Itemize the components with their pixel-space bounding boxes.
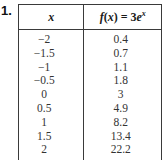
- table-row: 0.5 4.9: [19, 102, 162, 116]
- cell-x: 0.5: [19, 102, 84, 116]
- table-row: −1.5 0.7: [19, 47, 162, 61]
- table-row: −1 1.1: [19, 61, 162, 75]
- cell-x: −1.5: [19, 47, 84, 61]
- table-row: 1.5 13.4: [19, 130, 162, 144]
- cell-x: −2: [19, 30, 84, 47]
- exercise-page: 1. x f(x) = 3ex −2 0.4 −1.5 0.7 −1 1.1 −…: [0, 0, 167, 160]
- cell-fx: 8.2: [84, 116, 162, 130]
- function-values-table: x f(x) = 3ex −2 0.4 −1.5 0.7 −1 1.1 −0.5…: [18, 4, 162, 160]
- cell-x: 1.5: [19, 130, 84, 144]
- header-fx: f(x) = 3ex: [84, 5, 162, 30]
- cell-fx: 0.7: [84, 47, 162, 61]
- cell-fx: 3: [84, 88, 162, 102]
- cell-fx: 22.2: [84, 143, 162, 160]
- table-row: 1 8.2: [19, 116, 162, 130]
- cell-x: −1: [19, 61, 84, 75]
- cell-fx: 0.4: [84, 30, 162, 47]
- cell-fx: 13.4: [84, 130, 162, 144]
- table-header-row: x f(x) = 3ex: [19, 5, 162, 30]
- header-x-label: x: [48, 10, 54, 24]
- table-row: 0 3: [19, 88, 162, 102]
- table-row: −0.5 1.8: [19, 74, 162, 88]
- cell-fx: 1.8: [84, 74, 162, 88]
- header-equals-coefficient: = 3: [118, 10, 137, 24]
- cell-x: 2: [19, 143, 84, 160]
- cell-x: −0.5: [19, 74, 84, 88]
- cell-fx: 4.9: [84, 102, 162, 116]
- header-x: x: [19, 5, 84, 30]
- header-exponent: x: [142, 9, 146, 18]
- cell-x: 0: [19, 88, 84, 102]
- cell-fx: 1.1: [84, 61, 162, 75]
- table-row: 2 22.2: [19, 143, 162, 160]
- problem-number: 1.: [1, 3, 12, 18]
- table-row: −2 0.4: [19, 30, 162, 47]
- cell-x: 1: [19, 116, 84, 130]
